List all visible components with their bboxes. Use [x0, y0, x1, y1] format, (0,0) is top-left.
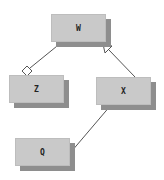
edge-q-x-association — [71, 105, 111, 152]
node-label: Q — [40, 148, 45, 157]
edge-x-w-generalization — [109, 50, 135, 77]
node-box: Z — [9, 75, 64, 103]
node-label: W — [76, 24, 81, 33]
node-box: Q — [15, 138, 70, 166]
node-box: X — [96, 77, 151, 105]
node-label: Z — [34, 85, 39, 94]
node-label: X — [121, 87, 126, 96]
node-box: W — [51, 14, 106, 42]
